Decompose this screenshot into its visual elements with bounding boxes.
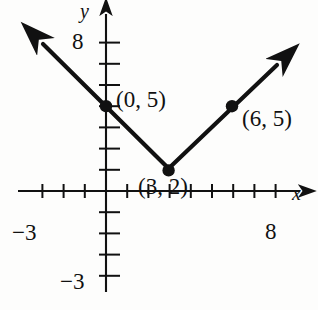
x-tick-label-neg3: −3 xyxy=(12,221,36,244)
y-axis xyxy=(99,14,120,292)
y-axis-label: y xyxy=(80,1,89,21)
y-tick-label-neg3: −3 xyxy=(60,270,84,293)
point-0-5 xyxy=(100,100,112,112)
y-tick-label-8: 8 xyxy=(72,30,84,53)
point-6-5 xyxy=(226,100,238,112)
graph-canvas xyxy=(0,0,318,310)
y-axis-ticks xyxy=(99,43,120,276)
x-axis-label: x xyxy=(292,183,301,203)
point-label-6-5: (6, 5) xyxy=(242,107,292,130)
x-tick-label-8: 8 xyxy=(265,220,277,243)
graph-figure: y x 8 −3 −3 8 (0, 5) (3, 2) (6, 5) xyxy=(0,0,318,310)
point-label-0-5: (0, 5) xyxy=(116,88,166,111)
point-label-3-2: (3, 2) xyxy=(138,175,188,198)
